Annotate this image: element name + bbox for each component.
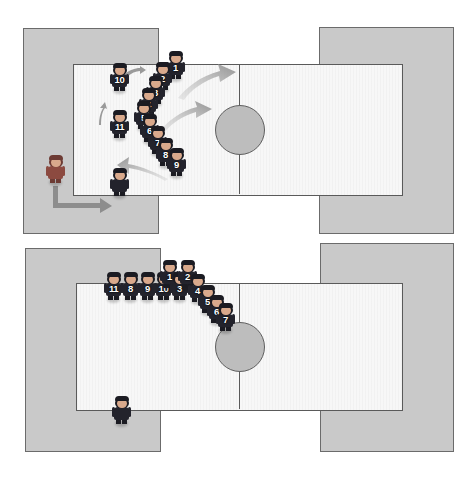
- player-token-9: 9: [167, 148, 186, 178]
- token-fringe: [113, 63, 127, 68]
- token-fringe: [156, 62, 170, 67]
- token-fringe: [115, 396, 129, 401]
- token-fringe: [107, 272, 121, 277]
- token-fringe: [124, 272, 138, 277]
- top-diagram-phase-1: 1234567891011: [0, 0, 475, 239]
- token-number: 9: [167, 160, 186, 170]
- token-jersey: [112, 179, 127, 192]
- token-fringe: [113, 168, 127, 173]
- top-stage: 1234567891011: [0, 0, 475, 239]
- bottom-stage: 1189101324567: [0, 239, 475, 478]
- token-fringe: [191, 274, 205, 279]
- arrow-upper-right-sweep: [176, 62, 238, 102]
- waiting-player: [110, 168, 129, 198]
- token-number: 10: [110, 75, 129, 85]
- token-fringe: [163, 260, 177, 265]
- token-fringe: [181, 260, 195, 265]
- token-fringe: [159, 138, 173, 143]
- center-circle-top: [215, 105, 265, 155]
- arrow-coach-entry: [50, 185, 114, 215]
- token-fringe: [141, 272, 155, 277]
- token-fringe: [201, 285, 215, 290]
- token-fringe: [113, 110, 127, 115]
- bottom-diagram-phase-2: 1189101324567: [0, 239, 475, 478]
- token-fringe: [142, 88, 156, 93]
- token-fringe: [170, 148, 184, 153]
- player-token-11: 11: [110, 110, 129, 140]
- token-fringe: [219, 303, 233, 308]
- arrow-up-to-player-11: [97, 102, 109, 126]
- token-fringe: [143, 114, 157, 119]
- token-fringe: [210, 295, 224, 300]
- player-token-7: 7: [216, 303, 235, 333]
- player-token-10: 10: [110, 63, 129, 93]
- token-jersey: [48, 166, 63, 179]
- token-fringe: [49, 155, 63, 160]
- token-fringe: [149, 76, 163, 81]
- waiting-player: [112, 396, 131, 426]
- token-fringe: [151, 126, 165, 131]
- token-fringe: [137, 101, 151, 106]
- token-number: 7: [216, 315, 235, 325]
- coach-figure: [46, 155, 65, 185]
- token-number: 11: [110, 122, 129, 132]
- token-fringe: [169, 51, 183, 56]
- token-jersey: [114, 407, 129, 420]
